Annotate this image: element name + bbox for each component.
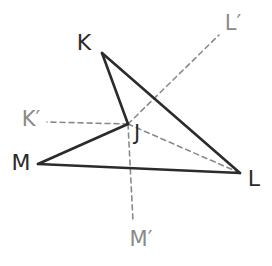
geometry-diagram: K L M J K′ L′ M′ bbox=[0, 0, 272, 266]
vertex-label-L-prime: L′ bbox=[225, 11, 242, 35]
geometry-canvas: K L M J K′ L′ M′ bbox=[0, 0, 272, 266]
vertex-label-M-prime: M′ bbox=[130, 227, 153, 251]
vertex-label-M: M bbox=[12, 150, 31, 175]
vertex-label-L: L bbox=[248, 166, 261, 191]
vertex-label-K: K bbox=[77, 30, 92, 55]
vertex-label-K-prime: K′ bbox=[22, 107, 41, 131]
vertex-label-J: J bbox=[132, 121, 140, 145]
